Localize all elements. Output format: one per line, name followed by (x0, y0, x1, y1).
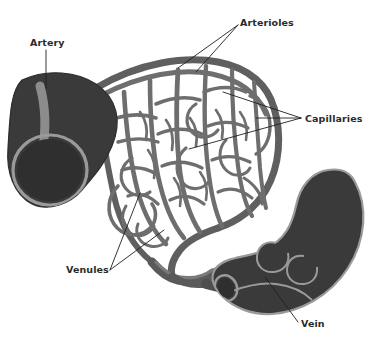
capillary-link (122, 168, 156, 174)
artery-vessel (8, 73, 117, 207)
capillary-link (162, 162, 202, 168)
capillary-stub (166, 120, 173, 150)
capillary-link (204, 88, 246, 93)
capillary-bed (96, 60, 279, 276)
blood-vessel-diagram: Artery Arterioles Capillaries Venules Ve… (0, 0, 373, 345)
label-venules: Venules (66, 264, 109, 275)
diagram-canvas: Artery Arterioles Capillaries Venules Ve… (0, 0, 373, 345)
vein-vessel (211, 170, 363, 315)
label-vein: Vein (301, 318, 325, 329)
label-artery: Artery (30, 37, 65, 48)
capillary-link (208, 122, 248, 128)
capillary-link (116, 115, 156, 118)
artery-lumen (17, 139, 83, 201)
capillary-link (118, 139, 158, 142)
capillary-strand (177, 70, 200, 232)
label-arterioles: Arterioles (240, 17, 294, 28)
capillary-link (212, 156, 250, 162)
vein-body (213, 170, 364, 315)
capillary-link (218, 189, 252, 198)
label-capillaries: Capillaries (305, 113, 363, 124)
